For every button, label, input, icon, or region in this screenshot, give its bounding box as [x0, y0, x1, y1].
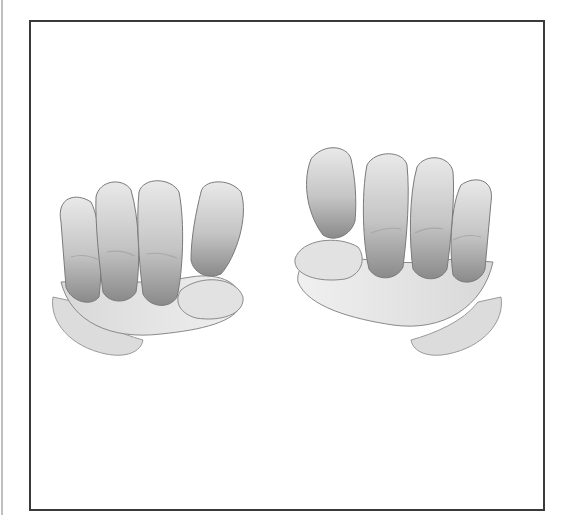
left-edge-line: [1, 0, 3, 515]
image-frame: Grayscale 3D-rendered illustration of tw…: [29, 20, 545, 511]
left-hand: [53, 181, 244, 355]
right-hand: [295, 148, 502, 355]
hands-illustration: [31, 22, 543, 509]
